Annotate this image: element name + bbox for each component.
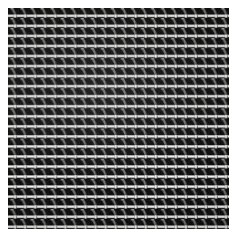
wire-mesh-illustration	[8, 8, 229, 229]
wire-mesh-swatch	[8, 8, 229, 229]
weave-field	[8, 8, 229, 229]
image-canvas: Woven metal wire mesh with black square …	[0, 0, 237, 237]
